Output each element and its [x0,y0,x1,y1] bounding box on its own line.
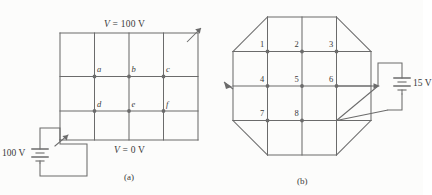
node-label-4: 4 [260,75,264,84]
panel-a-bottom-voltage-label: V = 0 V [114,146,145,156]
node-f [162,109,166,113]
node-label-a: a [97,65,101,74]
node-label-d: d [97,100,101,109]
node-label-1: 1 [260,40,264,49]
node-5 [300,84,304,88]
node-2 [300,50,304,54]
node-3 [335,50,339,54]
panel-b-caption: (b) [297,177,308,186]
node-label-e: e [132,100,136,109]
node-7 [266,119,270,123]
panel-a-top-terminal-arrow [187,28,201,42]
node-a [93,75,97,79]
node-label-b: b [132,65,136,74]
node-8 [300,119,304,123]
node-label-f: f [166,100,168,109]
node-e [127,109,131,113]
panel-b-right-terminal-arrow [337,83,389,120]
panel-a-top-voltage-value: 100 V [121,19,145,29]
node-label-2: 2 [295,40,299,49]
panel-b-battery-label: 15 V [413,79,432,89]
panel-a-battery-circuit [32,128,87,176]
node-label-3: 3 [329,40,333,49]
panel-b-left-terminal-arrow [224,82,233,89]
node-label-8: 8 [295,109,299,118]
node-label-5: 5 [295,75,299,84]
node-b [127,75,131,79]
panel-a-bottom-voltage-value: 0 V [131,145,145,155]
panel-b-battery-circuit [378,63,410,110]
node-label-7: 7 [260,109,264,118]
panel-a-top-voltage-label: V = 100 V [104,20,145,30]
panel-a-caption: (a) [124,173,134,182]
node-4 [266,84,270,88]
panel-a-battery-label: 100 V [2,149,25,159]
node-c [162,75,166,79]
node-label-6: 6 [329,75,333,84]
node-d [93,109,97,113]
node-label-c: c [166,65,170,74]
node-1 [266,50,270,54]
